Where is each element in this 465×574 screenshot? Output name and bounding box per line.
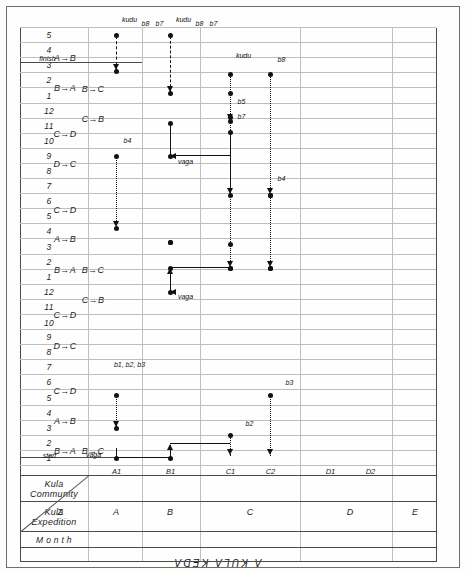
valuable-label: b8 (142, 19, 149, 27)
arrow-head (227, 449, 233, 455)
path-segment (270, 196, 271, 268)
arrow-head (227, 114, 233, 120)
valuable-label: b5 (238, 97, 245, 105)
data-marks-layer: startvagab2b3b1, b2, b3vagab5b4b4b7b8vag… (20, 6, 436, 562)
data-dot (268, 266, 273, 271)
valuable-label: b7 (210, 19, 217, 27)
valuable-label: kudu (240, 48, 247, 63)
valuable-label: start (46, 449, 53, 463)
grid-hline (436, 28, 437, 562)
valuable-label: b8 (196, 19, 203, 27)
path-segment (170, 36, 171, 92)
path-segment (270, 75, 271, 194)
path-segment (116, 156, 117, 227)
trunk (116, 457, 170, 458)
arrow-head (167, 268, 173, 274)
figure-page: A KULA KEDA M o n t hKulaExpeditionKulaC… (0, 0, 465, 574)
valuable-label: b7 (238, 112, 245, 120)
trunk3 (170, 155, 230, 156)
arrow-head (113, 221, 119, 227)
valuable-label: b2 (246, 419, 253, 427)
arrow-head (170, 289, 176, 295)
path-segment (230, 132, 231, 194)
valuable-label: b8 (278, 55, 285, 63)
valuable-label: finish (44, 51, 51, 67)
arrow-head (170, 153, 176, 159)
valuable-label: vaga (90, 447, 97, 462)
data-dot (228, 91, 233, 96)
path-segment (270, 395, 271, 456)
arrow-head (113, 64, 119, 70)
chart-wrapper: A KULA KEDA M o n t hKulaExpeditionKulaC… (20, 6, 436, 562)
trunk2 (170, 267, 230, 268)
valuable-label: b1, b2, b3 (126, 349, 133, 380)
valuable-label: b3 (286, 378, 293, 386)
data-dot (228, 266, 233, 271)
finish-line (20, 62, 142, 63)
valuable-label: b4 (278, 174, 285, 182)
valuable-label: b7 (156, 19, 163, 27)
valuable-label: b4 (124, 137, 131, 145)
valuable-label: kudu (126, 11, 133, 26)
valuable-label: kudu (180, 11, 187, 26)
kula-keda-chart: A KULA KEDA M o n t hKulaExpeditionKulaC… (20, 6, 436, 562)
data-dot (168, 240, 173, 245)
arrow-head (227, 188, 233, 194)
path-segment (170, 123, 171, 156)
arrow-head (113, 421, 119, 427)
arrow-head (167, 444, 173, 450)
trunk-b-c (170, 443, 230, 444)
arrow-head (267, 188, 273, 194)
arrow-head (167, 86, 173, 92)
arrow-head (267, 449, 273, 455)
valuable-label: vaga (182, 289, 189, 304)
